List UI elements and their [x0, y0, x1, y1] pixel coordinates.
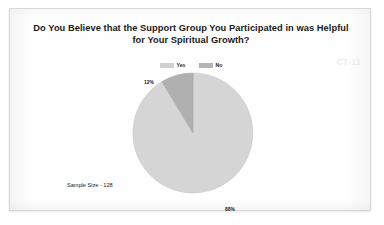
- chart-frame: Do You Believe that the Support Group Yo…: [9, 8, 371, 211]
- pie-chart: 12% 88% Sample Size - 128: [10, 9, 372, 212]
- sample-size-annotation: Sample Size - 128: [67, 182, 113, 189]
- pie-label-no: 12%: [144, 80, 154, 86]
- pie-svg: [131, 71, 255, 195]
- pie-graphic: [131, 71, 255, 195]
- scanned-page: Do You Believe that the Support Group Yo…: [0, 0, 384, 225]
- pie-label-yes: 88%: [225, 207, 235, 213]
